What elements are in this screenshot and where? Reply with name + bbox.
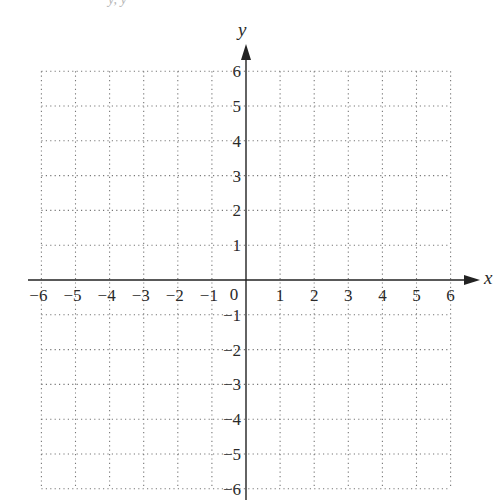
y-axis-label: y: [236, 19, 247, 40]
origin-label: 0: [230, 285, 239, 304]
y-tick-label: 3: [233, 167, 242, 186]
x-tick-label: 6: [446, 286, 455, 305]
x-tick-label: −4: [98, 286, 117, 305]
x-tick-label: −2: [166, 286, 184, 305]
cropped-text-fragment: y, y: [106, 0, 127, 7]
x-tick-labels: −6−5−4−3−2−1123456: [29, 286, 454, 305]
y-tick-label: −2: [223, 341, 241, 360]
x-axis-label: x: [483, 267, 493, 288]
x-tick-label: −6: [29, 286, 47, 305]
y-tick-label: 6: [233, 62, 242, 81]
y-tick-label: 2: [233, 201, 242, 220]
grid-svg: y, y x y 0 −6−5−4−3−2−1123456 654321−1−2…: [0, 0, 500, 500]
x-tick-label: 5: [412, 286, 421, 305]
y-tick-label: 5: [233, 97, 242, 116]
y-tick-label: −6: [223, 480, 241, 499]
y-tick-label: −5: [223, 445, 241, 464]
coordinate-plane: y, y x y 0 −6−5−4−3−2−1123456 654321−1−2…: [0, 0, 500, 500]
x-tick-label: 4: [378, 286, 387, 305]
x-tick-label: 1: [276, 286, 285, 305]
x-axis-arrow-icon: [464, 275, 480, 285]
axes: [28, 44, 480, 500]
x-tick-label: −5: [63, 286, 81, 305]
y-tick-label: 1: [233, 236, 242, 255]
y-tick-label: −1: [223, 306, 241, 325]
x-tick-label: 3: [344, 286, 353, 305]
y-axis-arrow-icon: [241, 44, 251, 60]
x-tick-label: −1: [200, 286, 218, 305]
y-tick-label: −4: [223, 410, 242, 429]
y-tick-label: 4: [233, 132, 242, 151]
y-tick-label: −3: [223, 375, 241, 394]
x-tick-label: 2: [310, 286, 319, 305]
x-tick-label: −3: [132, 286, 150, 305]
